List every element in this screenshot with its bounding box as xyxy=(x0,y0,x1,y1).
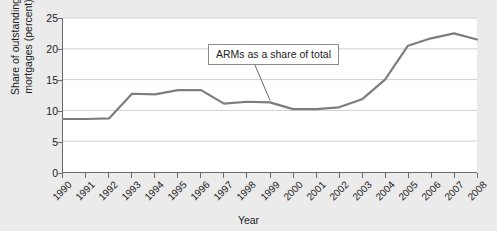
x-tick-label: 2007 xyxy=(442,179,466,203)
x-tick-label: 2006 xyxy=(419,179,443,203)
x-tick-mark xyxy=(85,173,86,178)
x-tick-mark xyxy=(454,173,455,178)
x-tick-mark xyxy=(200,173,201,178)
x-tick-label: 1996 xyxy=(189,179,213,203)
plot-area xyxy=(62,18,477,173)
x-tick-label: 2000 xyxy=(281,179,305,203)
x-tick-mark xyxy=(431,173,432,178)
y-tick-label: 0 xyxy=(32,168,58,178)
x-tick-label: 1991 xyxy=(73,179,97,203)
x-tick-label: 2004 xyxy=(373,179,397,203)
x-tick-mark xyxy=(108,173,109,178)
y-axis-tick-labels: 0510152025 xyxy=(30,18,58,173)
x-tick-label: 1995 xyxy=(166,179,190,203)
x-tick-label: 2001 xyxy=(304,179,328,203)
x-tick-mark xyxy=(246,173,247,178)
series-arms-share xyxy=(63,18,477,172)
x-tick-label: 2008 xyxy=(465,179,489,203)
chart-figure: Share of outstanding mortgages (percent)… xyxy=(0,0,497,231)
x-axis-tick-marks xyxy=(62,173,477,178)
x-tick-label: 1997 xyxy=(212,179,236,203)
x-tick-label: 1992 xyxy=(96,179,120,203)
y-axis-title-line-1: Share of outstanding xyxy=(9,0,21,95)
y-tick-label: 25 xyxy=(32,13,58,23)
y-tick-label: 10 xyxy=(32,106,58,116)
x-tick-mark xyxy=(408,173,409,178)
y-tick-label: 20 xyxy=(32,44,58,54)
x-tick-label: 1999 xyxy=(258,179,282,203)
x-tick-label: 2005 xyxy=(396,179,420,203)
annotation-arms-share: ARMs as a share of total xyxy=(208,44,339,65)
x-tick-mark xyxy=(270,173,271,178)
x-tick-mark xyxy=(223,173,224,178)
x-tick-label: 2002 xyxy=(327,179,351,203)
x-tick-label: 1994 xyxy=(142,179,166,203)
x-tick-mark xyxy=(385,173,386,178)
x-axis-title: Year xyxy=(0,214,497,226)
annotation-leader-line xyxy=(254,62,270,101)
x-tick-mark xyxy=(131,173,132,178)
x-tick-mark xyxy=(362,173,363,178)
x-tick-mark xyxy=(316,173,317,178)
x-tick-label: 2003 xyxy=(350,179,374,203)
x-tick-mark xyxy=(154,173,155,178)
x-tick-label: 1993 xyxy=(119,179,143,203)
y-tick-label: 5 xyxy=(32,137,58,147)
x-tick-label: 1998 xyxy=(235,179,259,203)
x-tick-mark xyxy=(293,173,294,178)
x-tick-mark xyxy=(177,173,178,178)
y-tick-label: 15 xyxy=(32,75,58,85)
x-tick-label: 1990 xyxy=(50,179,74,203)
x-tick-mark xyxy=(339,173,340,178)
x-tick-mark xyxy=(477,173,478,178)
x-axis-tick-labels: 1990199119921993199419951996199719981999… xyxy=(62,179,477,213)
x-tick-mark xyxy=(62,173,63,178)
